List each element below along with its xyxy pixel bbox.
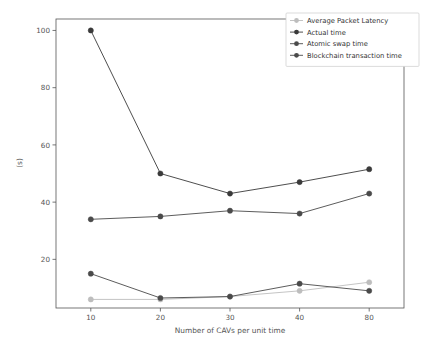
data-point <box>88 297 93 302</box>
data-point <box>88 271 93 276</box>
legend-label: Atomic swap time <box>307 40 368 48</box>
chart-figure: 20406080100 1020304080 Number of CAVs pe… <box>0 0 428 343</box>
data-point <box>158 214 163 219</box>
legend-marker <box>294 53 299 58</box>
y-tick-label: 80 <box>41 83 51 92</box>
x-axis-title: Number of CAVs per unit time <box>175 326 286 335</box>
legend-marker <box>294 41 299 46</box>
data-point <box>227 208 232 213</box>
data-point <box>227 294 232 299</box>
data-point <box>367 288 372 293</box>
data-point <box>297 179 302 184</box>
data-point <box>297 288 302 293</box>
x-tick-label: 10 <box>86 313 96 322</box>
x-tick-label: 20 <box>156 313 166 322</box>
legend-label: Blockchain transaction time <box>307 52 402 60</box>
x-tick-label: 40 <box>295 313 305 322</box>
data-point <box>88 217 93 222</box>
line-chart: 20406080100 1020304080 Number of CAVs pe… <box>0 0 428 343</box>
x-tick-label: 80 <box>365 313 375 322</box>
x-tick-label: 30 <box>225 313 235 322</box>
data-point <box>158 171 163 176</box>
data-point <box>297 281 302 286</box>
y-tick-label: 60 <box>41 141 51 150</box>
data-point <box>158 295 163 300</box>
chart-legend: Average Packet LatencyActual timeAtomic … <box>286 13 419 66</box>
data-point <box>367 167 372 172</box>
y-tick-label: 40 <box>41 198 51 207</box>
data-point <box>367 191 372 196</box>
y-axis-title: (s) <box>15 158 24 168</box>
data-point <box>297 211 302 216</box>
data-point <box>88 28 93 33</box>
legend-label: Actual time <box>307 29 346 37</box>
data-point <box>227 191 232 196</box>
legend-marker <box>294 18 299 23</box>
legend-label: Average Packet Latency <box>307 17 388 25</box>
y-tick-label: 20 <box>41 255 51 264</box>
y-tick-label: 100 <box>36 26 50 35</box>
data-point <box>367 280 372 285</box>
legend-marker <box>294 30 299 35</box>
